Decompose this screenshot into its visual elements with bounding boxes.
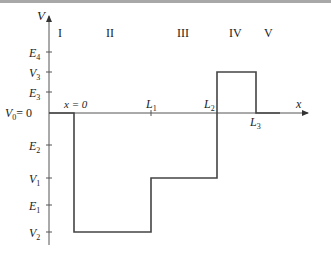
marker-label-L1: L1 — [145, 97, 157, 113]
tick-label-E1: E1 — [28, 199, 40, 215]
tick-label-V2: V2 — [29, 226, 40, 242]
tick-label-E3: E3 — [28, 86, 40, 102]
x-axis-label: x — [295, 97, 302, 111]
marker-label-L3: L3 — [249, 115, 261, 131]
y-axis-label: V — [37, 8, 47, 23]
origin-label: x = 0 — [63, 98, 88, 110]
tick-label-V0: V0= 0 — [5, 106, 32, 122]
region-label-III: III — [177, 26, 189, 40]
region-label-I: I — [58, 26, 62, 40]
region-label-II: II — [106, 26, 114, 40]
tick-label-E2: E2 — [28, 139, 40, 155]
potential-diagram: V x I II III IV V E4 V3 E3 V0= 0 E2 V1 E… — [0, 0, 331, 257]
region-label-V: V — [264, 26, 273, 40]
marker-label-L2: L2 — [203, 97, 215, 113]
potential-curve — [49, 72, 280, 232]
tick-label-V1: V1 — [29, 172, 40, 188]
tick-label-E4: E4 — [28, 46, 40, 62]
region-label-IV: IV — [229, 26, 242, 40]
tick-label-V3: V3 — [29, 66, 40, 82]
